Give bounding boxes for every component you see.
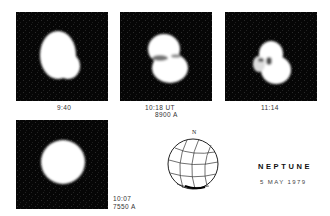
caption-time-4: 10:07 [113, 195, 131, 202]
caption-wavelength-2: 8900 A [155, 111, 178, 118]
image-panel-940 [16, 12, 108, 101]
caption-time-1: 9:40 [57, 104, 71, 111]
globe-orientation-icon [165, 136, 221, 192]
image-panel-1114 [225, 12, 317, 101]
neptune-image-1018 [120, 12, 212, 101]
image-panel-1007 [16, 120, 108, 209]
neptune-image-940 [16, 12, 108, 101]
caption-time-2: 10:18 UT [145, 104, 175, 111]
caption-time-3: 11:14 [261, 104, 279, 111]
figure-date: 5 MAY 1979 [260, 179, 306, 185]
north-label: N [192, 129, 196, 135]
neptune-image-1007 [16, 120, 108, 209]
caption-wavelength-4: 7550 A [113, 203, 136, 210]
figure-title: NEPTUNE [258, 162, 312, 171]
image-panel-1018 [120, 12, 212, 101]
neptune-image-1114 [225, 12, 317, 101]
